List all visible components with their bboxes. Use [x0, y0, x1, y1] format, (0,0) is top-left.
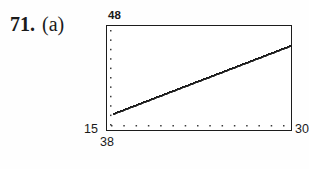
problem-number: 71. [10, 13, 35, 35]
x-axis-max-label: 30 [295, 123, 309, 135]
y-axis-tick-marks [110, 30, 112, 126]
y-axis-min-label: 15 [84, 123, 98, 135]
figure-container: 71.(a) 48 15 38 30 [0, 0, 309, 169]
y-axis-max-label: 48 [108, 9, 121, 21]
x-axis-min-label: 38 [100, 136, 114, 148]
plot-graphics [106, 25, 292, 131]
x-axis-tick-marks [111, 125, 285, 127]
problem-label: 71.(a) [10, 12, 64, 36]
problem-part-label: (a) [42, 13, 64, 35]
calculator-plot [106, 25, 292, 131]
data-line [113, 45, 292, 115]
